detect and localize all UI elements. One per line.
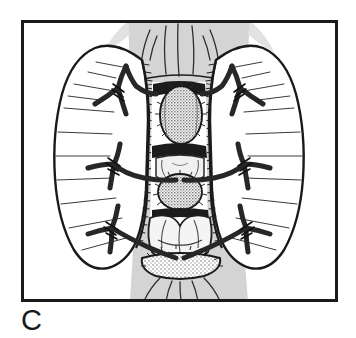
panel-label: C: [21, 305, 42, 335]
right-retracted-lobe: [204, 46, 304, 269]
surgical-illustration: [0, 0, 356, 338]
left-retracted-lobe: [54, 46, 154, 269]
figure-panel: C: [0, 0, 356, 338]
illustration-area: [22, 21, 337, 301]
